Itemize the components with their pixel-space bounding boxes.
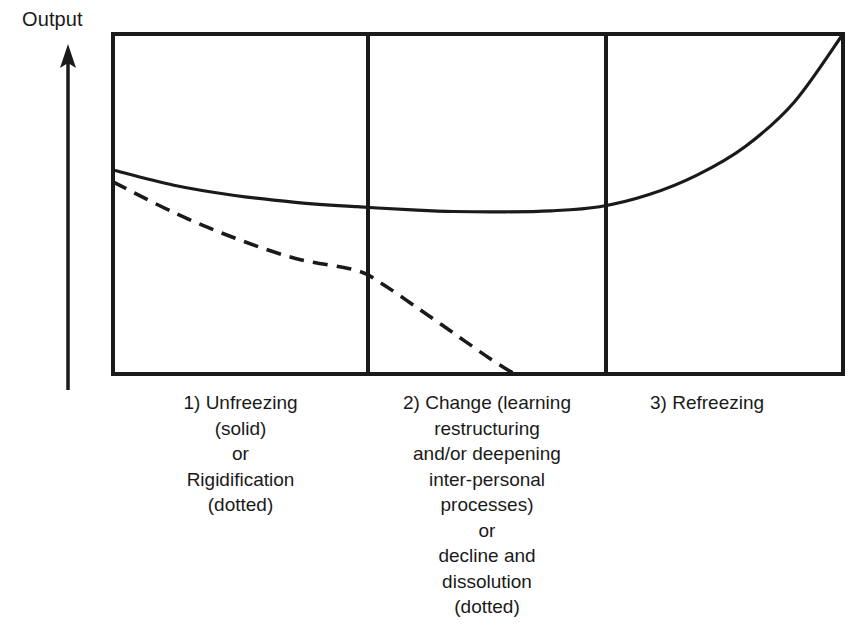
output-curve-solid (113, 34, 843, 212)
y-axis-arrow-icon (60, 44, 76, 390)
lewin-change-model-figure: Output 1) Unfreezing (solid) or Rigidifi… (0, 0, 857, 642)
phase-caption-change: 2) Change (learning restructuring and/or… (368, 390, 606, 620)
y-axis-label: Output (22, 8, 83, 31)
phase-caption-unfreezing: 1) Unfreezing (solid) or Rigidification … (113, 390, 368, 518)
plot-frame (113, 34, 843, 374)
phase-captions: 1) Unfreezing (solid) or Rigidification … (0, 390, 857, 640)
output-curve-dotted (113, 182, 515, 374)
phase-caption-refreezing: 3) Refreezing (606, 390, 843, 416)
